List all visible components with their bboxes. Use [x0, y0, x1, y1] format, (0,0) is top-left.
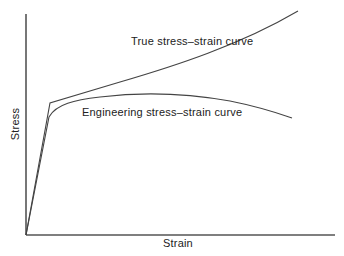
x-axis-label: Strain: [163, 237, 193, 249]
true-curve-label: True stress–strain curve: [131, 35, 253, 47]
y-axis-label: Stress: [9, 107, 21, 141]
engineering-curve-label: Engineering stress–strain curve: [82, 106, 242, 118]
